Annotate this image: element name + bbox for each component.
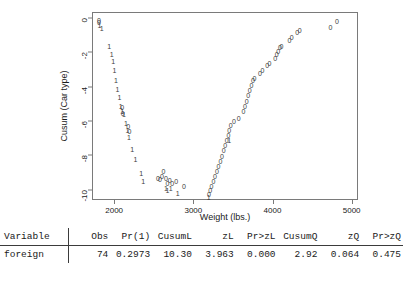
- cell-przl: 0.000: [236, 246, 278, 264]
- results-table: VariableObsPr(1)CusumLzLPr>zLCusumQzQPr>…: [0, 228, 403, 263]
- data-point-1: 1: [112, 66, 116, 73]
- cell-przq: 0.475: [361, 246, 403, 264]
- data-point-0: 0: [232, 118, 236, 125]
- column-header-obs: Obs: [69, 228, 111, 246]
- y-tick-label: -10: [80, 190, 89, 202]
- x-tick-mark: [273, 200, 274, 204]
- cell-cusumq: 2.92: [278, 246, 320, 264]
- data-point-0: 0: [329, 23, 333, 30]
- column-header-pr1: Pr(1): [110, 228, 152, 246]
- data-point-1: 1: [130, 145, 134, 152]
- data-point-0: 0: [268, 59, 272, 66]
- y-tick-label: -8: [80, 155, 89, 162]
- x-tick-label: 3000: [184, 206, 202, 215]
- data-point-1: 1: [133, 155, 137, 162]
- data-point-1: 1: [176, 190, 180, 197]
- cell-zq: 0.064: [319, 246, 361, 264]
- column-header-variable: Variable: [0, 228, 62, 246]
- data-point-0: 0: [335, 17, 339, 24]
- cell-zl: 3.963: [194, 246, 236, 264]
- data-point-1: 1: [114, 76, 118, 83]
- data-point-1: 1: [100, 25, 104, 32]
- data-point-1: 1: [107, 42, 111, 49]
- table-body: foreign740.297310.303.9630.0002.920.0640…: [0, 246, 403, 264]
- y-tick-label: 0: [80, 18, 89, 22]
- y-axis-title: Cusum (Car type): [59, 70, 69, 141]
- data-point-1: 1: [139, 169, 143, 176]
- y-tick-label: -4: [80, 87, 89, 94]
- cusum-chart: Cusum (Car type) Weight (lbs.) 0-2-4-6-8…: [0, 0, 403, 222]
- data-point-1: 1: [141, 178, 145, 185]
- x-tick-label: 5000: [343, 206, 361, 215]
- truncated-text-row: [0, 279, 403, 284]
- data-point-0: 0: [279, 42, 283, 49]
- column-header-zq: zQ: [319, 228, 361, 246]
- plot-area: 1111111111111111111111111000000000000000…: [92, 12, 358, 200]
- data-point-1: 1: [111, 58, 115, 65]
- data-point-1: 1: [116, 85, 120, 92]
- data-point-0: 0: [290, 34, 294, 41]
- cell-pr1: 0.2973: [110, 246, 152, 264]
- x-tick-label: 2000: [105, 206, 123, 215]
- x-tick-mark: [352, 200, 353, 204]
- y-tick-label: -6: [80, 121, 89, 128]
- x-tick-mark: [193, 200, 194, 204]
- x-tick-label: 4000: [264, 206, 282, 215]
- data-point-0: 0: [182, 183, 186, 190]
- table-row: foreign740.297310.303.9630.0002.920.0640…: [0, 246, 403, 264]
- x-axis-title: Weight (lbs.): [200, 212, 250, 222]
- y-tick-label: -2: [80, 52, 89, 59]
- x-tick-mark: [114, 200, 115, 204]
- data-point-0: 0: [97, 19, 101, 26]
- column-header-cusuml: CusumL: [152, 228, 194, 246]
- data-point-0: 0: [237, 114, 241, 121]
- cell-obs: 74: [69, 246, 111, 264]
- table-head: VariableObsPr(1)CusumLzLPr>zLCusumQzQPr>…: [0, 228, 403, 246]
- column-header-zl: zL: [194, 228, 236, 246]
- data-point-1: 1: [118, 94, 122, 101]
- column-header-przl: Pr>zL: [236, 228, 278, 246]
- data-point-0: 0: [253, 75, 257, 82]
- column-header-przq: Pr>zQ: [361, 228, 403, 246]
- cell-cusuml: 10.30: [152, 246, 194, 264]
- table-header-row: VariableObsPr(1)CusumLzLPr>zLCusumQzQPr>…: [0, 228, 403, 246]
- data-point-0: 0: [260, 66, 264, 73]
- column-header-cusumq: CusumQ: [278, 228, 320, 246]
- data-point-0: 0: [174, 178, 178, 185]
- data-point-0: 0: [127, 128, 131, 135]
- cell-variable: foreign: [0, 246, 62, 264]
- data-point-0: 0: [121, 109, 125, 116]
- data-point-0: 0: [298, 27, 302, 34]
